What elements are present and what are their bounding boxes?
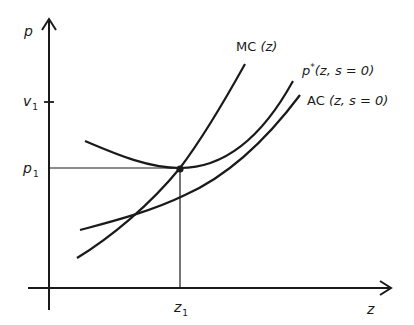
z1-label: z1 bbox=[174, 300, 188, 314]
ac-curve bbox=[80, 95, 300, 230]
equilibrium-point bbox=[176, 165, 183, 172]
mc-curve-label: MC (z) bbox=[236, 40, 277, 53]
p1-label: p1 bbox=[23, 161, 39, 175]
mc-curve bbox=[77, 64, 245, 258]
ac-curve-label: AC (z, s = 0) bbox=[307, 94, 388, 107]
x-axis-label: z bbox=[367, 302, 374, 316]
v1-label: v1 bbox=[23, 94, 38, 108]
p-star-curve-label: p*(z, s = 0) bbox=[302, 64, 374, 77]
y-axis-label: p bbox=[24, 24, 33, 38]
diagram-canvas bbox=[0, 0, 414, 325]
